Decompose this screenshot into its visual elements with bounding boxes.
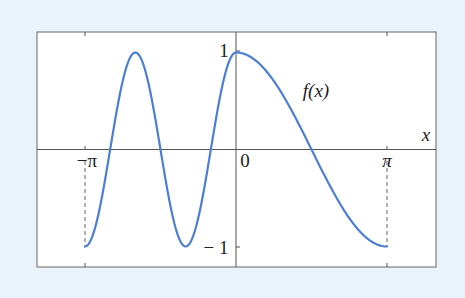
tick-label-pi: π (382, 150, 392, 171)
tick-label-zero: 0 (240, 150, 250, 171)
tick-label-y-one: 1 (219, 40, 229, 61)
tick-label-neg-pi: −π (77, 150, 98, 171)
curve-label: f(x) (303, 80, 329, 102)
x-axis-label: x (421, 124, 431, 145)
tick-label-y-neg-one: − 1 (204, 237, 229, 258)
chart: −π 0 π 1 − 1 x f(x) (0, 0, 465, 298)
